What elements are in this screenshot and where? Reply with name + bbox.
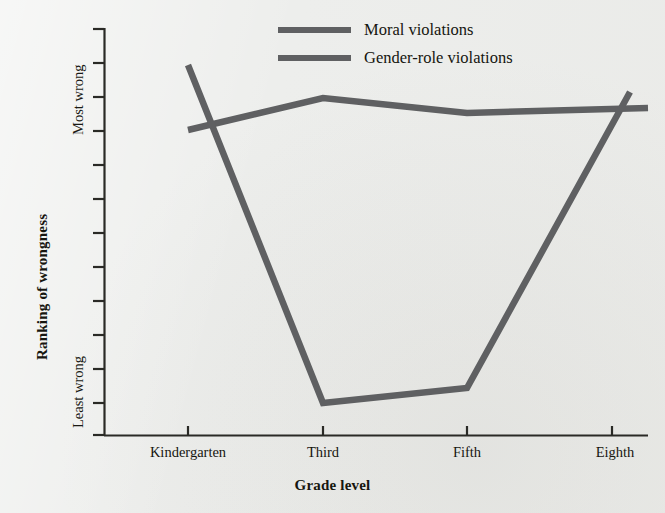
legend-item-gender-role-violations: Gender-role violations	[278, 44, 513, 72]
legend-swatch-icon-gender-role-violations	[278, 55, 351, 61]
series-line-moral-violations	[188, 98, 648, 130]
x-axis-title: Grade level	[0, 477, 665, 494]
x-tick-label-fifth: Fifth	[453, 444, 481, 461]
legend-item-moral-violations: Moral violations	[278, 16, 513, 44]
legend-label-moral-violations: Moral violations	[364, 20, 474, 40]
legend-label-gender-role-violations: Gender-role violations	[364, 48, 513, 68]
legend-swatch-icon-moral-violations	[278, 27, 351, 33]
y-axis-bottom-label: Least wrong	[70, 356, 87, 428]
x-tick-label-kindergarten: Kindergarten	[150, 444, 226, 461]
y-axis-ticks	[93, 29, 104, 435]
x-tick-label-third: Third	[307, 444, 339, 461]
chart-figure: Ranking of wrongness Most wrong Least wr…	[0, 0, 665, 513]
y-axis-top-label: Most wrong	[70, 65, 87, 136]
chart-legend: Moral violations Gender-role violations	[278, 16, 513, 72]
y-axis-title: Ranking of wrongness	[34, 214, 51, 360]
line-chart-plot	[0, 0, 665, 513]
x-tick-label-eighth: Eighth	[596, 444, 635, 461]
